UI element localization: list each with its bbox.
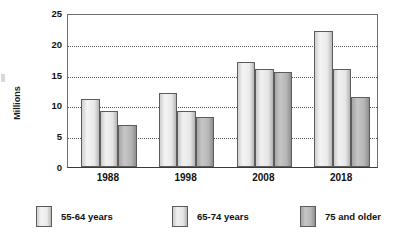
bar-1988-65-74-years	[100, 111, 119, 167]
x-tick-2008: 2008	[230, 172, 298, 183]
x-axis-tick-labels: 1988199820082018	[67, 172, 378, 190]
bar-2008-55-64-years	[237, 62, 256, 167]
bar-group-2008	[237, 15, 293, 167]
legend-item-55-64-years[interactable]: 55-64 years	[36, 203, 113, 229]
bar-group-2018	[314, 15, 370, 167]
bar-2018-65-74-years	[333, 69, 352, 167]
bar-chart: Millions 0510152025 1988199820082018 55-…	[0, 0, 400, 241]
bar-1988-55-64-years	[81, 99, 100, 167]
legend-item-65-74-years[interactable]: 65-74 years	[172, 203, 249, 229]
y-tick-0: 0	[36, 163, 62, 173]
bar-groups	[68, 15, 377, 167]
bar-1998-75-and-older	[196, 117, 215, 167]
bar-1998-55-64-years	[159, 93, 178, 167]
y-tick-25: 25	[36, 9, 62, 19]
bar-2008-65-74-years	[255, 69, 274, 167]
bar-2018-55-64-years	[314, 31, 333, 167]
bar-group-1988	[81, 15, 137, 167]
edge-artifact	[1, 74, 5, 82]
y-tick-10: 10	[36, 101, 62, 111]
y-tick-20: 20	[36, 40, 62, 50]
y-tick-5: 5	[36, 132, 62, 142]
bar-1998-65-74-years	[177, 111, 196, 167]
bar-1988-75-and-older	[118, 125, 137, 168]
plot-area	[67, 14, 378, 168]
x-tick-2018: 2018	[307, 172, 375, 183]
bar-2008-75-and-older	[274, 72, 293, 167]
legend-swatch-icon-0	[36, 206, 52, 227]
legend-label: 75 and older	[325, 211, 381, 222]
bar-2018-75-and-older	[351, 97, 370, 167]
x-tick-1988: 1988	[74, 172, 142, 183]
legend-label: 65-74 years	[197, 211, 249, 222]
legend-swatch-icon-2	[300, 206, 316, 227]
y-tick-15: 15	[36, 71, 62, 81]
legend-swatch-icon-1	[172, 206, 188, 227]
y-axis-title: Millions	[12, 68, 22, 138]
x-tick-1998: 1998	[152, 172, 220, 183]
legend-label: 55-64 years	[61, 211, 113, 222]
chart-legend: 55-64 years65-74 years75 and older	[0, 203, 400, 233]
legend-item-75-and-older[interactable]: 75 and older	[300, 203, 381, 229]
bar-group-1998	[159, 15, 215, 167]
